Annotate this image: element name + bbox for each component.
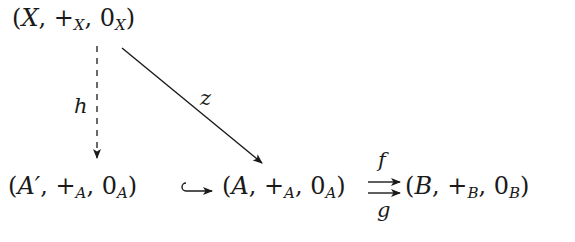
zero-subscript: A xyxy=(325,184,336,202)
arrows-layer xyxy=(0,0,575,242)
paren-close: ) xyxy=(126,4,135,32)
comma: , xyxy=(478,172,493,200)
paren-close: ) xyxy=(336,172,345,200)
zero-element: 0 xyxy=(494,172,509,200)
arrow-z xyxy=(122,48,262,163)
node-a-prime: (A′, +A, 0A) xyxy=(8,174,137,198)
plus-subscript: B xyxy=(467,184,478,202)
node-variable: B xyxy=(414,172,432,200)
paren-open: ( xyxy=(405,172,414,200)
zero-element: 0 xyxy=(102,172,117,200)
comma: , xyxy=(38,4,53,32)
plus-operator: + xyxy=(447,172,467,200)
plus-subscript: A xyxy=(76,184,87,202)
arrow-inclusion xyxy=(182,183,212,191)
node-a: (A, +A, 0A) xyxy=(222,174,346,198)
plus-subscript: A xyxy=(284,184,295,202)
comma: , xyxy=(85,4,100,32)
label-h: h xyxy=(74,96,88,117)
label-g: g xyxy=(377,200,390,221)
zero-subscript: A xyxy=(117,184,128,202)
plus-operator: + xyxy=(264,172,284,200)
label-z: z xyxy=(200,88,211,109)
paren-open: ( xyxy=(222,172,231,200)
plus-subscript: X xyxy=(74,16,85,34)
node-variable: A xyxy=(231,172,248,200)
zero-element: 0 xyxy=(100,4,115,32)
node-b: (B, +B, 0B) xyxy=(405,174,529,198)
label-f: f xyxy=(378,150,386,171)
comma: , xyxy=(40,172,55,200)
plus-operator: + xyxy=(55,172,75,200)
node-variable: X xyxy=(21,4,38,32)
zero-subscript: X xyxy=(115,16,126,34)
node-x: (X, +X, 0X) xyxy=(12,6,135,30)
comma: , xyxy=(295,172,310,200)
plus-operator: + xyxy=(54,4,74,32)
paren-open: ( xyxy=(8,172,17,200)
paren-close: ) xyxy=(128,172,137,200)
comma: , xyxy=(432,172,447,200)
comma: , xyxy=(249,172,264,200)
zero-subscript: B xyxy=(509,184,520,202)
zero-element: 0 xyxy=(310,172,325,200)
paren-close: ) xyxy=(520,172,529,200)
node-variable: A′ xyxy=(17,172,40,200)
paren-open: ( xyxy=(12,4,21,32)
comma: , xyxy=(86,172,101,200)
